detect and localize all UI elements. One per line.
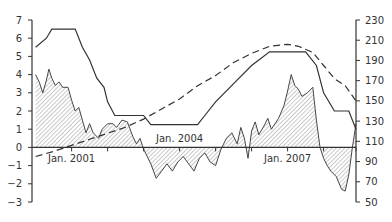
right-tick-label: 130 — [365, 116, 384, 127]
left-tick-label: 1 — [16, 124, 22, 135]
x-tick-label: Jan. 2007 — [263, 153, 311, 164]
chart: 76543210−1−2−323021019017015013011090705… — [0, 0, 392, 222]
right-tick-label: 50 — [365, 197, 378, 208]
x-tick-label: Jan. 2001 — [47, 153, 95, 164]
right-tick-label: 230 — [365, 15, 384, 26]
right-tick-label: 110 — [365, 136, 384, 147]
hatched-area-fill — [36, 69, 356, 191]
left-tick-label: 0 — [16, 142, 22, 153]
right-tick-label: 190 — [365, 55, 384, 66]
left-tick-label: −3 — [7, 197, 22, 208]
left-tick-label: 7 — [16, 15, 22, 26]
left-tick-label: −1 — [7, 160, 22, 171]
left-tick-label: 2 — [16, 106, 22, 117]
left-tick-label: 5 — [16, 51, 22, 62]
right-tick-label: 150 — [365, 95, 384, 106]
left-tick-label: 3 — [16, 87, 22, 98]
right-tick-label: 170 — [365, 75, 384, 86]
left-tick-label: 6 — [16, 33, 22, 44]
right-tick-label: 210 — [365, 35, 384, 46]
right-tick-label: 90 — [365, 156, 378, 167]
left-tick-label: −2 — [7, 178, 22, 189]
left-tick-label: 4 — [16, 69, 22, 80]
x-tick-label: Jan. 2004 — [155, 133, 203, 144]
hatched-area-series — [36, 69, 356, 191]
right-tick-label: 70 — [365, 176, 378, 187]
